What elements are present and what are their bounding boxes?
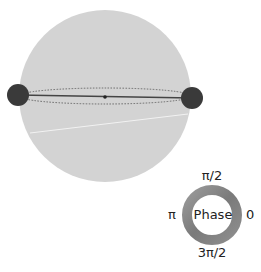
phase-label-bottom: 3π/2 (192, 245, 232, 260)
phase-label-left: π (168, 207, 176, 222)
left-atom (7, 84, 29, 106)
bloch-sphere-diagram (0, 0, 261, 272)
phase-legend-title: Phase (193, 207, 233, 222)
phase-label-top: π/2 (196, 168, 228, 183)
phase-label-right: 0 (246, 207, 254, 222)
right-atom (181, 87, 203, 109)
center-dot (103, 95, 107, 99)
